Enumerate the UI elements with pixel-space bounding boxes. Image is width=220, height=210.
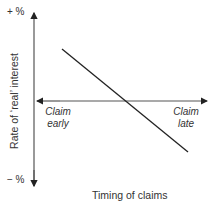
x-right-label-line1: Claim (168, 106, 204, 118)
x-left-label-line2: early (40, 118, 76, 130)
y-axis-label: Rate of ‘real’ interest (8, 37, 20, 165)
x-right-label-line2: late (168, 118, 204, 130)
y-top-label: + % (7, 6, 25, 17)
x-left-label: Claim early (40, 106, 76, 130)
x-right-label: Claim late (168, 106, 204, 130)
x-axis-label: Timing of claims (92, 189, 167, 201)
x-left-label-line1: Claim (40, 106, 76, 118)
diagram-canvas (0, 0, 220, 210)
y-bottom-label: − % (7, 174, 25, 185)
